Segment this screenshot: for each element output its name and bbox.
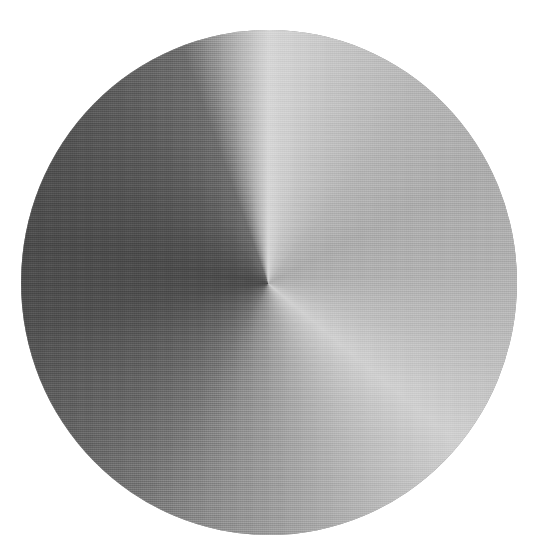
image-canvas: Conical gradient metal disc A circular b… <box>0 0 538 558</box>
metal-disc <box>21 30 517 535</box>
conic-gradient-fill <box>21 30 517 535</box>
